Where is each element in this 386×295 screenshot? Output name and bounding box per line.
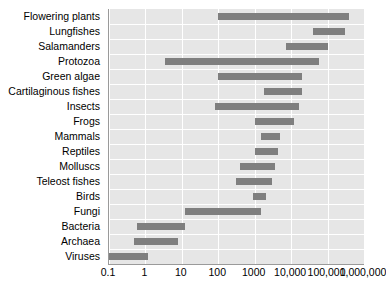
range-bar <box>109 253 148 260</box>
category-label: Teleost fishes <box>36 174 100 189</box>
horizontal-gridline <box>109 144 364 145</box>
category-label: Salamanders <box>38 39 100 54</box>
category-label: Bacteria <box>61 219 100 234</box>
range-bar <box>313 28 345 35</box>
range-bar <box>185 208 261 215</box>
horizontal-gridline <box>109 69 364 70</box>
range-bar <box>134 238 178 245</box>
category-label: Insects <box>67 99 100 114</box>
category-label: Green algae <box>42 69 100 84</box>
category-label: Fungi <box>74 204 100 219</box>
category-label: Mammals <box>54 129 100 144</box>
category-label: Lungfishes <box>49 24 100 39</box>
x-tick-label: 1000 <box>242 266 265 278</box>
category-label: Archaea <box>61 234 100 249</box>
vertical-gridline <box>255 9 256 264</box>
range-bar <box>286 43 328 50</box>
range-bar <box>255 148 279 155</box>
horizontal-gridline <box>109 189 364 190</box>
range-bar <box>137 223 184 230</box>
vertical-gridline <box>109 9 110 264</box>
x-tick-label: 1 <box>142 266 148 278</box>
plot-area <box>108 9 364 265</box>
category-label: Reptiles <box>62 144 100 159</box>
category-label: Viruses <box>65 249 100 264</box>
horizontal-gridline <box>109 234 364 235</box>
horizontal-gridline <box>109 39 364 40</box>
range-bar <box>264 88 302 95</box>
category-axis: Flowering plantsLungfishesSalamandersPro… <box>0 9 104 264</box>
horizontal-gridline <box>109 99 364 100</box>
category-label: Flowering plants <box>24 9 100 24</box>
category-label: Birds <box>76 189 100 204</box>
x-tick-label: 10,000 <box>274 266 306 278</box>
range-bar <box>255 118 294 125</box>
x-tick-label: 1,000,000 <box>340 266 386 278</box>
horizontal-gridline <box>109 174 364 175</box>
category-label: Protozoa <box>58 54 100 69</box>
value-axis: 0.1110100100010,000100,0001,000,000 <box>108 266 378 284</box>
horizontal-gridline <box>109 159 364 160</box>
horizontal-gridline <box>109 84 364 85</box>
horizontal-gridline <box>109 129 364 130</box>
x-tick-label: 10 <box>175 266 187 278</box>
vertical-gridline <box>364 9 365 264</box>
horizontal-gridline <box>109 249 364 250</box>
range-bar <box>165 58 319 65</box>
range-bar <box>215 103 299 110</box>
range-bar <box>253 193 266 200</box>
range-bar <box>218 13 349 20</box>
vertical-gridline <box>218 9 219 264</box>
horizontal-gridline <box>109 114 364 115</box>
horizontal-gridline <box>109 219 364 220</box>
x-tick-label: 0.1 <box>101 266 116 278</box>
horizontal-gridline <box>109 54 364 55</box>
horizontal-gridline <box>109 204 364 205</box>
range-bar <box>240 163 274 170</box>
x-tick-label: 100 <box>209 266 227 278</box>
vertical-gridline <box>328 9 329 264</box>
category-label: Frogs <box>73 114 100 129</box>
category-label: Molluscs <box>59 159 100 174</box>
category-label: Cartilaginous fishes <box>8 84 100 99</box>
range-bar <box>236 178 272 185</box>
horizontal-gridline <box>109 24 364 25</box>
range-bar <box>218 73 302 80</box>
range-bar <box>261 133 280 140</box>
